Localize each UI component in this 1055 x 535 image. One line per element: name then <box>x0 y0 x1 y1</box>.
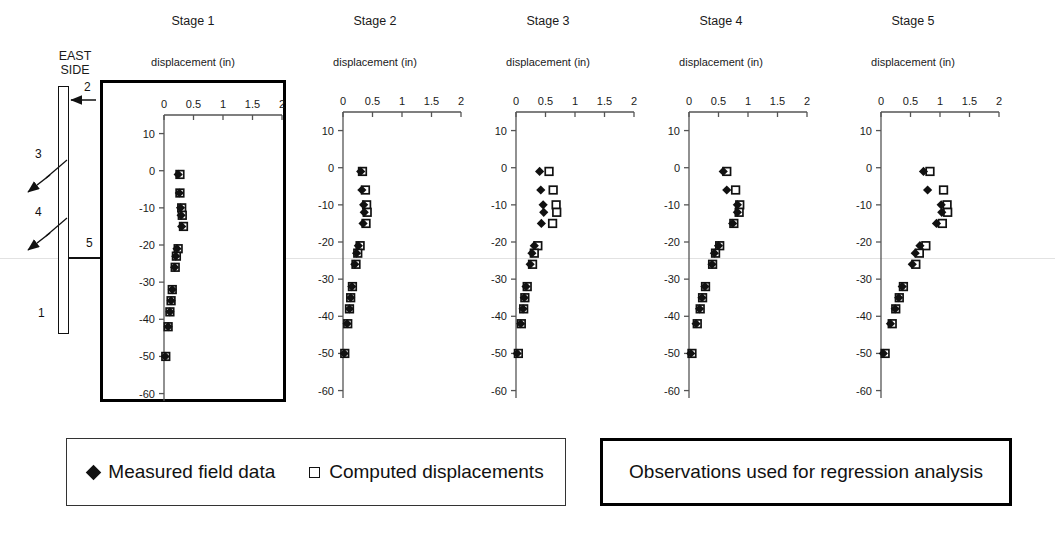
svg-text:-20: -20 <box>318 236 334 248</box>
measured-field-data-marker <box>722 185 731 194</box>
svg-text:-60: -60 <box>318 385 334 397</box>
svg-text:1.5: 1.5 <box>597 95 612 107</box>
svg-text:10: 10 <box>143 128 155 140</box>
legend-label-measured: Measured field data <box>108 461 275 483</box>
svg-text:10: 10 <box>668 125 680 137</box>
svg-text:-60: -60 <box>856 385 872 397</box>
svg-text:-40: -40 <box>318 310 334 322</box>
svg-text:0: 0 <box>328 162 334 174</box>
legend-label-computed: Computed displacements <box>329 461 543 483</box>
schematic-label-4: 4 <box>35 205 42 219</box>
svg-text:0.5: 0.5 <box>538 95 553 107</box>
x-axis-title: displacement (in) <box>100 56 286 68</box>
measured-field-data-marker <box>537 219 546 228</box>
svg-text:-20: -20 <box>139 239 155 251</box>
svg-text:0: 0 <box>878 95 884 107</box>
svg-text:1.5: 1.5 <box>245 98 260 110</box>
stage-plot-area: 00.511.52100-10-20-30-40-50-60 <box>628 80 814 402</box>
svg-text:-30: -30 <box>318 273 334 285</box>
svg-text:10: 10 <box>860 125 872 137</box>
svg-text:-40: -40 <box>664 310 680 322</box>
observations-box: Observations used for regression analysi… <box>600 438 1012 506</box>
x-axis-title: displacement (in) <box>455 56 641 68</box>
svg-text:1.5: 1.5 <box>424 95 439 107</box>
svg-text:1: 1 <box>745 95 751 107</box>
svg-text:10: 10 <box>322 125 334 137</box>
stage-panel-title: Stage 5 <box>820 14 1006 28</box>
stage-panel-title: Stage 4 <box>628 14 814 28</box>
computed-displacement-marker <box>732 186 740 194</box>
open-square-icon <box>309 467 320 478</box>
svg-text:-20: -20 <box>664 236 680 248</box>
scatter-plot-svg: 00.511.52100-10-20-30-40-50-60 <box>103 83 289 405</box>
stage-panel-2: Stage 2displacement (in)00.511.52100-10-… <box>282 8 468 408</box>
figure-root: EAST SIDE 2 3 4 5 1 Elevation <box>0 0 1055 535</box>
svg-text:0.5: 0.5 <box>711 95 726 107</box>
svg-text:-10: -10 <box>491 199 507 211</box>
svg-text:-50: -50 <box>318 347 334 359</box>
svg-text:-50: -50 <box>856 347 872 359</box>
stage-panel-5: Stage 5displacement (in)00.511.52100-10-… <box>820 8 1006 408</box>
computed-displacement-marker <box>549 220 557 228</box>
svg-text:0: 0 <box>501 162 507 174</box>
svg-text:-40: -40 <box>139 313 155 325</box>
measured-field-data-marker <box>923 185 932 194</box>
svg-text:-10: -10 <box>856 199 872 211</box>
computed-displacement-marker <box>940 186 948 194</box>
svg-text:1: 1 <box>937 95 943 107</box>
computed-displacement-marker <box>552 201 560 209</box>
stage-panel-title: Stage 3 <box>455 14 641 28</box>
scatter-plot-svg: 00.511.52100-10-20-30-40-50-60 <box>455 80 641 402</box>
svg-text:0: 0 <box>674 162 680 174</box>
svg-text:-30: -30 <box>139 276 155 288</box>
schematic-label-3: 3 <box>35 147 42 161</box>
observations-note-text: Observations used for regression analysi… <box>629 461 983 483</box>
svg-text:0: 0 <box>513 95 519 107</box>
svg-text:1.5: 1.5 <box>962 95 977 107</box>
svg-text:1.5: 1.5 <box>770 95 785 107</box>
svg-text:-60: -60 <box>664 385 680 397</box>
svg-text:-20: -20 <box>856 236 872 248</box>
svg-text:0: 0 <box>340 95 346 107</box>
scatter-plot-svg: 00.511.52100-10-20-30-40-50-60 <box>282 80 468 402</box>
svg-text:1: 1 <box>399 95 405 107</box>
svg-text:-60: -60 <box>139 388 155 400</box>
scatter-plot-svg: 00.511.52100-10-20-30-40-50-60 <box>628 80 814 402</box>
stage-plot-area: 00.511.52100-10-20-30-40-50-60 <box>455 80 641 402</box>
svg-text:-40: -40 <box>856 310 872 322</box>
measured-field-data-marker <box>539 200 548 209</box>
svg-text:0: 0 <box>866 162 872 174</box>
svg-text:-60: -60 <box>491 385 507 397</box>
svg-text:1: 1 <box>220 98 226 110</box>
svg-text:-10: -10 <box>664 199 680 211</box>
svg-text:-50: -50 <box>664 347 680 359</box>
computed-displacement-marker <box>553 208 561 216</box>
legend-item-measured: Measured field data <box>88 461 275 483</box>
measured-field-data-marker <box>535 167 544 176</box>
measured-field-data-marker <box>539 208 548 217</box>
svg-text:2: 2 <box>804 95 810 107</box>
scatter-plot-svg: 00.511.52100-10-20-30-40-50-60 <box>820 80 1006 402</box>
svg-text:-40: -40 <box>491 310 507 322</box>
schematic-label-5: 5 <box>86 236 93 250</box>
x-axis-title: displacement (in) <box>820 56 1006 68</box>
svg-text:-30: -30 <box>491 273 507 285</box>
svg-text:-20: -20 <box>491 236 507 248</box>
svg-text:0: 0 <box>161 98 167 110</box>
computed-displacement-marker <box>545 168 553 176</box>
stage-panel-title: Stage 2 <box>282 14 468 28</box>
svg-text:0: 0 <box>686 95 692 107</box>
stage-panel-1: Stage 1displacement (in)00.511.52100-10-… <box>100 8 286 408</box>
stage-plot-area: 00.511.52100-10-20-30-40-50-60 <box>820 80 1006 402</box>
svg-text:0.5: 0.5 <box>903 95 918 107</box>
x-axis-title: displacement (in) <box>282 56 468 68</box>
stage-panel-title: Stage 1 <box>100 14 286 28</box>
svg-text:1: 1 <box>572 95 578 107</box>
filled-diamond-icon <box>86 464 102 480</box>
schematic-label-2: 2 <box>84 80 91 94</box>
x-axis-title: displacement (in) <box>628 56 814 68</box>
stage-panel-4: Stage 4displacement (in)00.511.52100-10-… <box>628 8 814 408</box>
svg-text:-10: -10 <box>318 199 334 211</box>
svg-text:0: 0 <box>149 165 155 177</box>
legend-box: Measured field data Computed displacemen… <box>66 438 566 506</box>
